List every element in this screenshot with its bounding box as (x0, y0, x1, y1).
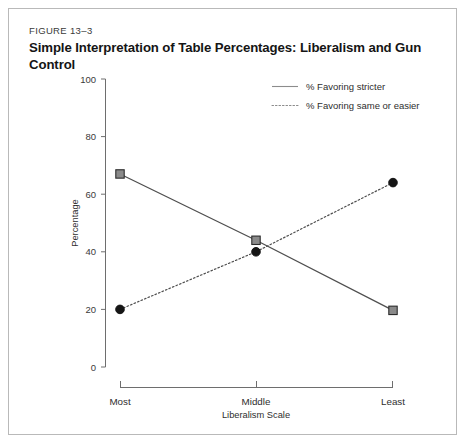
series-line-dotted (120, 183, 393, 310)
x-axis-tick-labels: Most Middle Least (109, 396, 405, 407)
y-axis-ticks (101, 79, 106, 367)
y-tick-label: 80 (85, 131, 96, 142)
x-tick-label: Most (109, 396, 131, 407)
x-axis-title: Liberalism Scale (222, 410, 290, 420)
y-tick-label: 20 (85, 304, 96, 315)
figure-frame: FIGURE 13–3 Simple Interpretation of Tab… (8, 8, 457, 435)
data-point-marker (389, 178, 398, 187)
data-point-marker (116, 170, 124, 178)
y-tick-label: 40 (85, 246, 96, 257)
data-point-marker (252, 248, 261, 257)
line-chart-svg: 100 80 60 40 20 0 Percentage Most Middle… (9, 9, 458, 436)
x-axis (120, 381, 393, 388)
legend-label-same-or-easier: % Favoring same or easier (306, 100, 420, 111)
y-tick-label: 60 (85, 189, 96, 200)
legend-label-stricter: % Favoring stricter (306, 81, 385, 92)
chart-plot-area: 100 80 60 40 20 0 Percentage Most Middle… (9, 9, 458, 436)
data-point-marker (116, 305, 125, 314)
x-tick-label: Least (381, 396, 405, 407)
y-axis-title: Percentage (70, 199, 80, 247)
y-tick-label: 100 (80, 74, 96, 85)
data-point-marker (252, 236, 260, 244)
y-axis-tick-labels: 100 80 60 40 20 0 (80, 74, 96, 373)
data-point-marker (389, 306, 397, 314)
chart-legend: % Favoring stricter % Favoring same or e… (272, 81, 420, 111)
series-favoring-same-or-easier (116, 178, 398, 313)
y-tick-label: 0 (91, 362, 96, 373)
x-tick-label: Middle (242, 396, 271, 407)
